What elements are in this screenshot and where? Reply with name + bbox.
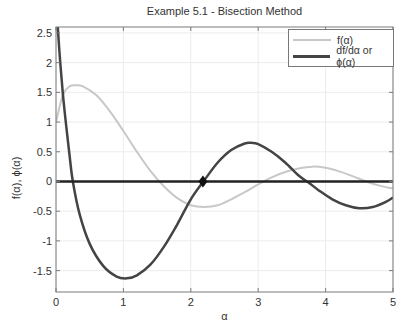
y-tick-label: -0.5 bbox=[33, 205, 52, 217]
y-axis-label: f(α), ϕ(α) bbox=[10, 128, 22, 228]
x-tick-label: 2 bbox=[188, 296, 194, 308]
x-tick-label: 4 bbox=[323, 296, 329, 308]
y-tick-label: -1.5 bbox=[33, 265, 52, 277]
x-tick-label: 3 bbox=[255, 296, 261, 308]
legend-label-phi: df/dα or ϕ(α) bbox=[336, 44, 393, 68]
legend: f(α) df/dα or ϕ(α) bbox=[288, 29, 394, 67]
x-tick-label: 0 bbox=[53, 296, 59, 308]
y-tick-label: -1 bbox=[42, 235, 52, 247]
legend-swatch-phi bbox=[293, 55, 330, 58]
x-tick-label: 1 bbox=[120, 296, 126, 308]
y-tick-label: 1 bbox=[46, 116, 52, 128]
x-axis-label: α bbox=[56, 310, 393, 322]
y-tick-label: 2.5 bbox=[37, 27, 52, 39]
y-tick-label: 2 bbox=[46, 57, 52, 69]
x-tick-label: 5 bbox=[390, 296, 396, 308]
legend-item-phi: df/dα or ϕ(α) bbox=[293, 48, 393, 64]
y-tick-label: 1.5 bbox=[37, 86, 52, 98]
legend-swatch-f bbox=[293, 39, 331, 41]
y-tick-label: 0.5 bbox=[37, 146, 52, 158]
chart-title: Example 5.1 - Bisection Method bbox=[56, 5, 393, 17]
y-tick-label: 0 bbox=[46, 175, 52, 187]
series-f- bbox=[56, 85, 393, 207]
